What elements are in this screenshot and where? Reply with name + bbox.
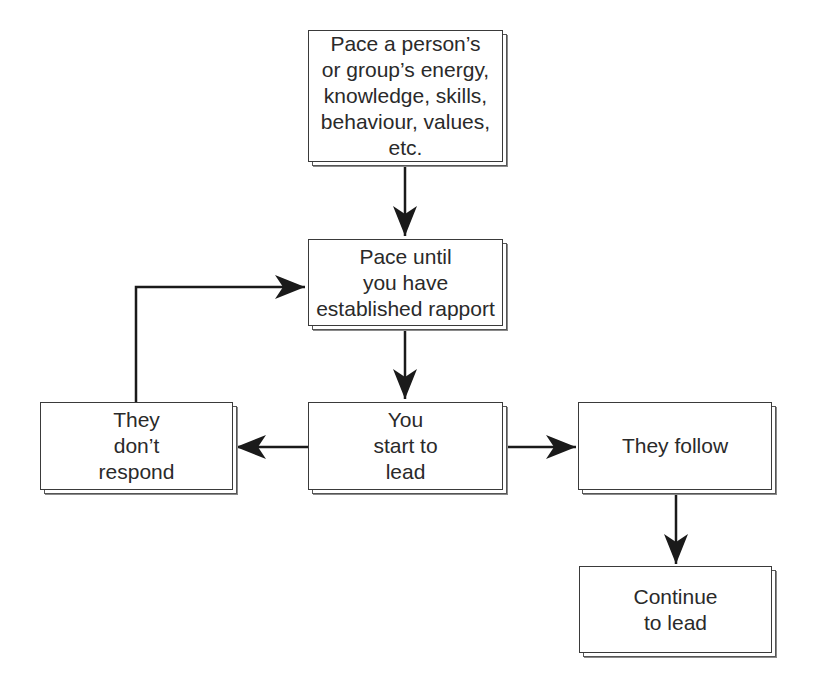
node-pace-energy-label: Pace a person’s or group’s energy, knowl… <box>321 31 490 161</box>
node-pace-energy: Pace a person’s or group’s energy, knowl… <box>308 30 503 162</box>
node-continue-to-lead-label: Continue to lead <box>633 584 717 636</box>
node-establish-rapport: Pace until you have established rapport <box>308 239 503 326</box>
node-dont-respond: They don’t respond <box>40 402 233 490</box>
node-they-follow: They follow <box>578 402 772 490</box>
edge-no-response-to-rapport <box>136 287 305 404</box>
node-establish-rapport-label: Pace until you have established rapport <box>316 244 495 322</box>
node-they-follow-label: They follow <box>622 433 728 459</box>
node-dont-respond-label: They don’t respond <box>99 407 175 485</box>
node-start-to-lead: You start to lead <box>308 402 503 490</box>
node-continue-to-lead: Continue to lead <box>579 566 772 653</box>
node-start-to-lead-label: You start to lead <box>373 407 437 485</box>
